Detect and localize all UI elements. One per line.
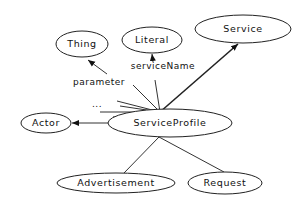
edge-label-parameter: parameter bbox=[73, 77, 125, 87]
node-thing-label: Thing bbox=[66, 38, 97, 49]
edge-request bbox=[159, 137, 224, 172]
node-advertisement-label: Advertisement bbox=[77, 177, 155, 188]
node-thing: Thing bbox=[56, 31, 108, 57]
edge-advertisement bbox=[124, 137, 159, 173]
node-service-profile: ServiceProfile bbox=[108, 109, 232, 137]
node-request: Request bbox=[188, 172, 262, 194]
node-service-profile-label: ServiceProfile bbox=[133, 117, 206, 128]
node-service: Service bbox=[195, 15, 291, 43]
edge-parameter-arrow bbox=[88, 60, 107, 74]
node-actor-label: Actor bbox=[32, 117, 60, 128]
edge-label-ellipsis: ... bbox=[92, 99, 102, 109]
node-actor: Actor bbox=[21, 113, 71, 133]
edge-service-arrow bbox=[160, 44, 238, 112]
node-advertisement: Advertisement bbox=[57, 173, 175, 193]
edge-label-servicename: serviceName bbox=[131, 61, 195, 71]
node-request-label: Request bbox=[204, 177, 247, 188]
node-service-label: Service bbox=[223, 23, 262, 34]
node-literal-label: Literal bbox=[135, 34, 169, 45]
node-literal: Literal bbox=[122, 27, 182, 53]
ontology-diagram: Thing Literal Service Actor ServiceProfi… bbox=[0, 0, 305, 206]
